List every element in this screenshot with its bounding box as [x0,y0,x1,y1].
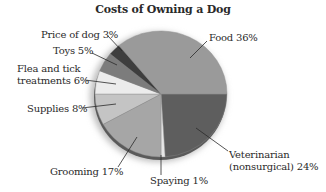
label-food: Food 36% [209,32,258,43]
label-veterinarian-line1: Veterinarian [229,149,290,160]
label-flea-line2: treatments 6% [17,75,89,86]
label-veterinarian-line2: (nonsurgical) 24% [229,161,318,172]
pie-slice-veterinarian-nonsurgical [161,94,227,157]
label-grooming: Grooming 17% [50,166,123,177]
label-spaying: Spaying 1% [150,175,208,186]
label-supplies: Supplies 8% [27,103,87,114]
label-price-of-dog: Price of dog 3% [41,29,118,40]
label-flea-line1: Flea and tick [17,63,80,74]
label-toys: Toys 5% [53,45,93,56]
